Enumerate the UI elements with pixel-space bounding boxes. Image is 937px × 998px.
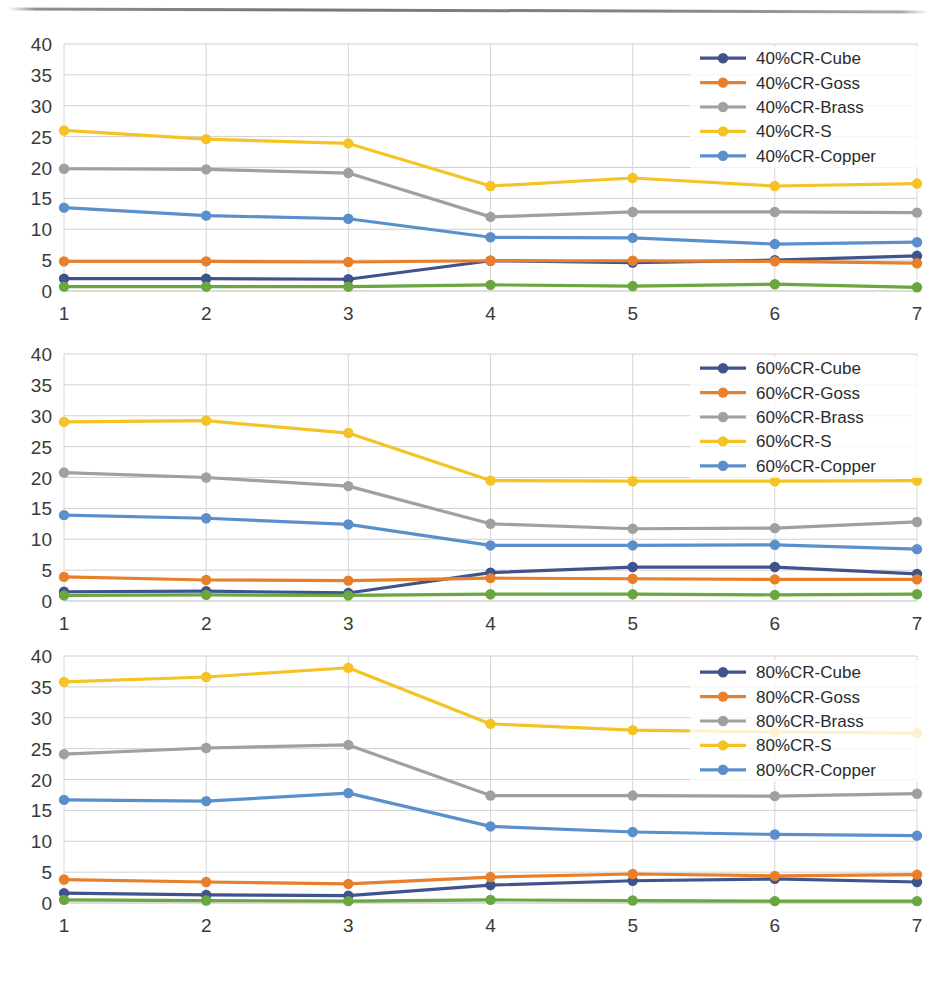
- legend-label: 40%CR-S: [756, 122, 832, 141]
- y-axis-tick-label: 15: [31, 498, 52, 519]
- legend-label: 80%CR-S: [756, 736, 832, 755]
- y-axis-tick-label: 5: [41, 250, 52, 271]
- legend-label: 40%CR-Goss: [756, 74, 860, 93]
- legend-label: 80%CR-Goss: [756, 688, 860, 707]
- y-axis-tick-label: 40: [31, 344, 52, 365]
- y-axis-tick-label: 35: [31, 65, 52, 86]
- chart-panel-80pct: 0510152025303540123456780%CR-Cube80%CR-G…: [0, 648, 937, 998]
- legend-label: 60%CR-Cube: [756, 359, 861, 378]
- legend-label: 80%CR-Brass: [756, 712, 864, 731]
- legend-marker-icon: [718, 765, 728, 775]
- y-axis-tick-label: 15: [31, 800, 52, 821]
- x-axis-tick-label: 1: [59, 915, 70, 936]
- scan-horizontal-rule: [8, 8, 929, 14]
- y-axis-tick-label: 10: [31, 831, 52, 852]
- x-axis-tick-label: 3: [343, 303, 354, 324]
- x-axis-tick-label: 2: [201, 613, 212, 634]
- x-axis-tick-label: 4: [485, 915, 496, 936]
- y-axis-tick-label: 0: [41, 281, 52, 302]
- y-axis-tick-label: 0: [41, 893, 52, 914]
- y-axis-tick-label: 10: [31, 219, 52, 240]
- legend-marker-icon: [718, 126, 728, 136]
- x-axis-tick-label: 3: [343, 915, 354, 936]
- x-axis-tick-label: 5: [627, 613, 638, 634]
- legend-label: 40%CR-Cube: [756, 49, 861, 68]
- x-axis-tick-label: 6: [770, 613, 781, 634]
- y-axis-tick-label: 40: [31, 34, 52, 55]
- y-axis-tick-label: 20: [31, 770, 52, 791]
- y-axis-tick-label: 5: [41, 560, 52, 581]
- chart-panel-60pct: 0510152025303540123456760%CR-Cube60%CR-G…: [0, 338, 937, 648]
- x-axis-tick-label: 1: [59, 613, 70, 634]
- legend-marker-icon: [718, 667, 728, 677]
- legend-marker-icon: [718, 102, 728, 112]
- chart-legend: 80%CR-Cube80%CR-Goss80%CR-Brass80%CR-S80…: [690, 660, 928, 782]
- y-axis-tick-label: 25: [31, 127, 52, 148]
- legend-marker-icon: [718, 740, 728, 750]
- page-root: 0510152025303540123456740%CR-Cube40%CR-G…: [0, 0, 937, 998]
- y-axis-tick-label: 35: [31, 375, 52, 396]
- x-axis-tick-label: 3: [343, 613, 354, 634]
- y-axis-tick-label: 30: [31, 96, 52, 117]
- y-axis-tick-label: 30: [31, 406, 52, 427]
- y-axis-tick-label: 40: [31, 648, 52, 667]
- y-axis-tick-label: 15: [31, 188, 52, 209]
- legend-label: 80%CR-Cube: [756, 663, 861, 682]
- y-axis-tick-label: 20: [31, 158, 52, 179]
- x-axis-tick-label: 5: [627, 303, 638, 324]
- y-axis-tick-label: 20: [31, 468, 52, 489]
- legend-marker-icon: [718, 387, 728, 397]
- legend-marker-icon: [718, 461, 728, 471]
- y-axis-tick-label: 35: [31, 677, 52, 698]
- y-axis-tick-label: 5: [41, 862, 52, 883]
- y-axis-tick-label: 25: [31, 437, 52, 458]
- legend-label: 40%CR-Copper: [756, 147, 876, 166]
- x-axis-tick-label: 7: [912, 613, 923, 634]
- x-axis-tick-label: 1: [59, 303, 70, 324]
- legend-label: 60%CR-Copper: [756, 457, 876, 476]
- x-axis-tick-label: 2: [201, 915, 212, 936]
- legend-marker-icon: [718, 53, 728, 63]
- legend-marker-icon: [718, 363, 728, 373]
- x-axis-tick-label: 7: [912, 303, 923, 324]
- legend-marker-icon: [718, 151, 728, 161]
- x-axis-tick-label: 6: [770, 915, 781, 936]
- legend-marker-icon: [718, 436, 728, 446]
- y-axis-tick-label: 30: [31, 708, 52, 729]
- 40pct-CR-chart-svg: 0510152025303540123456740%CR-Cube40%CR-G…: [0, 28, 937, 338]
- series-unlabeled: [59, 895, 922, 907]
- y-axis-tick-label: 10: [31, 529, 52, 550]
- y-axis-tick-label: 0: [41, 591, 52, 612]
- legend-marker-icon: [718, 716, 728, 726]
- chart-legend: 60%CR-Cube60%CR-Goss60%CR-Brass60%CR-S60…: [690, 356, 928, 478]
- x-axis-tick-label: 2: [201, 303, 212, 324]
- legend-marker-icon: [718, 691, 728, 701]
- legend-marker-icon: [718, 412, 728, 422]
- 60pct-CR-chart-svg: 0510152025303540123456760%CR-Cube60%CR-G…: [0, 338, 937, 648]
- legend-marker-icon: [718, 77, 728, 87]
- legend-label: 80%CR-Copper: [756, 761, 876, 780]
- x-axis-tick-label: 6: [770, 303, 781, 324]
- x-axis-tick-label: 4: [485, 613, 496, 634]
- chart-panel-40pct: 0510152025303540123456740%CR-Cube40%CR-G…: [0, 28, 937, 338]
- x-axis-tick-label: 7: [912, 915, 923, 936]
- 80pct-CR-chart-svg: 0510152025303540123456780%CR-Cube80%CR-G…: [0, 648, 937, 998]
- legend-label: 60%CR-Brass: [756, 408, 864, 427]
- x-axis-tick-label: 4: [485, 303, 496, 324]
- legend-label: 60%CR-S: [756, 432, 832, 451]
- y-axis-tick-label: 25: [31, 739, 52, 760]
- x-axis-tick-label: 5: [627, 915, 638, 936]
- legend-label: 40%CR-Brass: [756, 98, 864, 117]
- chart-legend: 40%CR-Cube40%CR-Goss40%CR-Brass40%CR-S40…: [690, 46, 928, 168]
- legend-label: 60%CR-Goss: [756, 384, 860, 403]
